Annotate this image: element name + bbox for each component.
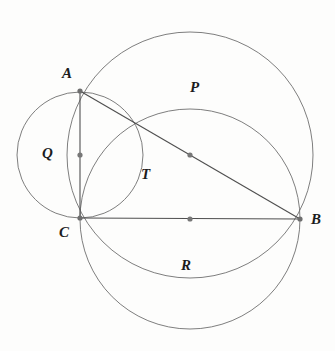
vertex-dot-B: [297, 216, 302, 221]
vertex-label-B: B: [311, 212, 321, 227]
center-dot-Q: [77, 152, 82, 157]
center-dot-P: [187, 152, 192, 157]
vertex-label-C: C: [59, 225, 69, 240]
vertex-dot-C: [77, 215, 82, 220]
vertex-label-A: A: [62, 66, 72, 81]
geometry-figure: A B C P Q R T: [0, 0, 335, 351]
region-label-T: T: [141, 167, 150, 182]
center-dot-R: [187, 216, 192, 221]
region-label-P: P: [190, 80, 199, 95]
region-label-R: R: [181, 258, 191, 273]
geometry-canvas: [0, 0, 335, 351]
vertex-dot-A: [77, 88, 82, 93]
region-label-Q: Q: [42, 146, 53, 161]
